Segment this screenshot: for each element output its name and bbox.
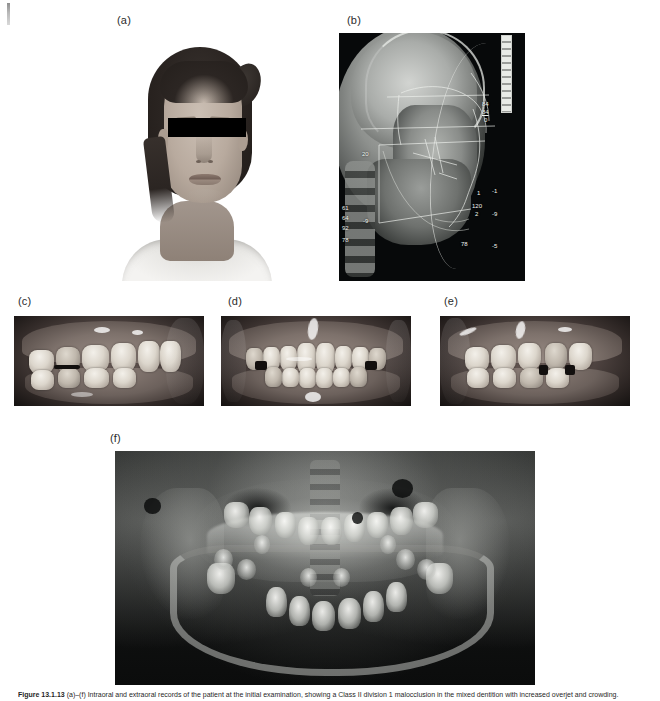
lips-region — [189, 174, 221, 185]
eye-redaction-bar — [168, 118, 246, 137]
photo-intraoral-left — [440, 316, 630, 406]
tooth-maxillary-molar — [413, 502, 438, 528]
ceph-value-left-2: 64 — [342, 215, 349, 222]
nostril-left — [196, 160, 201, 163]
tooth-upper-lateral-incisor — [335, 346, 352, 371]
developing-tooth-germ — [300, 568, 317, 587]
cheek-retractor — [221, 320, 246, 403]
ceph-value-right-2: -9 — [492, 211, 497, 218]
buccal-corridor-shadow — [365, 361, 376, 370]
radiolucency-marker — [352, 512, 363, 524]
tooth-maxillary — [298, 517, 319, 545]
photo-intraoral-right — [14, 316, 204, 406]
occlusal-shadow — [54, 365, 81, 370]
chin-region — [186, 189, 224, 203]
ceph-value-right-3: -5 — [492, 243, 497, 250]
ceph-value-left-4: 78 — [342, 237, 349, 244]
developing-tooth-germ — [254, 535, 271, 554]
face-photo-canvas — [104, 33, 284, 281]
ceph-mandible — [367, 159, 471, 245]
tooth-mandibular — [289, 596, 310, 626]
tooth-upper — [138, 341, 161, 372]
developing-tooth-germ — [417, 559, 436, 580]
ceph-value-top-2: 84 — [482, 109, 489, 116]
nostril-right — [208, 160, 213, 163]
radiograph-ceph: 84 84 0 20 61 64 92 78 -9 1 120 2 -1 -9 … — [339, 33, 525, 281]
ceph-calibration-ruler — [501, 35, 512, 113]
hair-fringe-region — [160, 61, 248, 103]
developing-tooth-germ — [333, 568, 350, 587]
flash-highlight — [94, 327, 110, 333]
flash-highlight — [305, 392, 321, 402]
tooth-upper — [518, 343, 541, 370]
ceph-value-incisor-2: 120 — [472, 203, 482, 210]
tooth-lower-incisor — [333, 368, 350, 387]
figure-page: (a) (b) — [0, 0, 660, 701]
photo-face — [104, 33, 284, 281]
tooth-maxillary — [367, 512, 388, 538]
ceph-cervical-spine — [345, 161, 375, 277]
tooth-lower — [84, 368, 109, 388]
page-margin-rule — [7, 3, 10, 25]
tooth-lower — [58, 368, 81, 388]
tooth-lower — [31, 370, 54, 390]
ceph-value-incisor-3: 2 — [475, 211, 478, 218]
tooth-lower — [113, 368, 136, 388]
tooth-mandibular — [363, 591, 384, 621]
radiograph-panoramic — [115, 451, 535, 685]
nose-region — [196, 133, 212, 163]
figure-caption-label: Figure 13.1.13 — [18, 691, 65, 698]
cheek-retractor — [166, 318, 204, 404]
tooth-maxillary — [390, 507, 413, 535]
ceph-value-left-1: 61 — [342, 205, 349, 212]
panel-label-f: (f) — [110, 432, 121, 444]
panel-label-b: (b) — [347, 14, 361, 26]
buccal-corridor-shadow — [255, 361, 266, 370]
developing-tooth-germ — [380, 535, 397, 554]
ceph-value-lower: 78 — [461, 241, 468, 248]
panel-label-a: (a) — [117, 14, 131, 26]
flash-highlight — [558, 327, 572, 332]
tooth-mandibular — [266, 587, 287, 617]
tooth-maxillary — [275, 512, 296, 538]
ceph-value-top-3: 0 — [484, 117, 487, 124]
tooth-lower-incisor — [282, 368, 299, 387]
ceph-value-incisor-1: 1 — [477, 190, 480, 197]
tooth-maxillary — [249, 507, 272, 535]
tooth-lower-incisor — [316, 368, 333, 388]
ceph-value-left-3: 92 — [342, 225, 349, 232]
tooth-lower-canine — [350, 367, 367, 387]
figure-caption: Figure 13.1.13 (a)–(f) Intraoral and ext… — [18, 690, 642, 701]
tooth-mandibular — [312, 601, 335, 631]
tooth-lower — [467, 368, 490, 388]
figure-caption-text: (a)–(f) Intraoral and extraoral records … — [67, 691, 619, 698]
panel-label-d: (d) — [228, 295, 242, 307]
tooth-lower-canine — [265, 367, 282, 387]
tooth-lower — [493, 368, 516, 388]
tooth-maxillary — [321, 517, 342, 545]
cheek-retractor — [440, 318, 470, 404]
tooth-maxillary-molar — [224, 502, 249, 528]
ceph-value-left-offset: -9 — [363, 218, 368, 225]
ceph-value-midface: 20 — [362, 151, 369, 158]
tooth-mandibular — [386, 582, 407, 612]
panel-label-e: (e) — [444, 295, 458, 307]
radiolucency-marker — [392, 479, 413, 498]
developing-tooth-germ — [237, 559, 256, 580]
tooth-lower-incisor — [299, 368, 316, 388]
cheek-retractor — [386, 320, 411, 403]
tooth-mandibular — [338, 598, 361, 628]
ceph-value-top-1: 84 — [482, 101, 489, 108]
panel-label-c: (c) — [18, 295, 31, 307]
occlusal-shadow — [539, 365, 549, 376]
occlusal-shadow — [565, 365, 575, 376]
developing-tooth-germ — [214, 549, 233, 570]
photo-intraoral-front — [221, 316, 411, 406]
flash-highlight — [71, 392, 93, 397]
ceph-value-right-1: -1 — [492, 188, 497, 195]
